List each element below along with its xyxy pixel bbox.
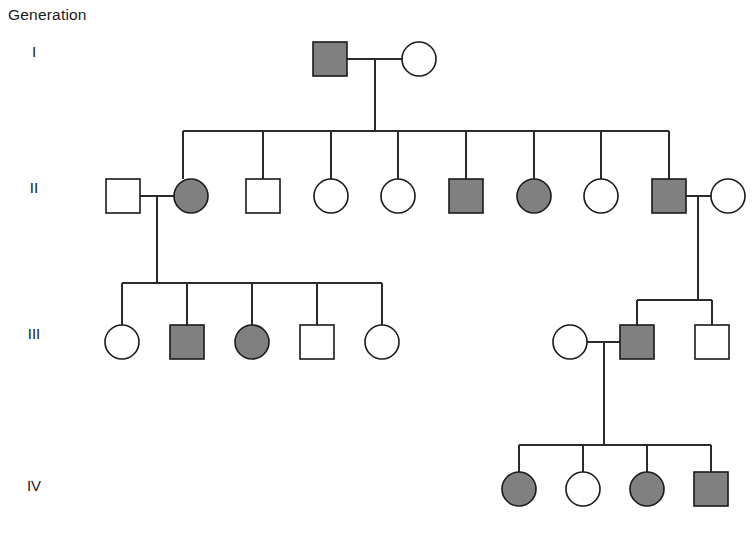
individual-symbols (105, 42, 745, 506)
pedigree-diagram (0, 0, 756, 539)
individual-III-2-male-affected (170, 325, 204, 359)
individual-II-10-female-unaffected (711, 179, 745, 213)
individual-IV-3-female-affected (630, 472, 664, 506)
individual-II-6-male-affected (449, 179, 483, 213)
individual-III-4-male-unaffected (300, 325, 334, 359)
individual-III-8-male-unaffected (695, 325, 729, 359)
individual-I-1-male-affected (313, 42, 347, 76)
individual-III-7-male-affected (620, 325, 654, 359)
connector-lines (122, 59, 712, 472)
individual-IV-2-female-unaffected (566, 472, 600, 506)
individual-IV-1-female-affected (502, 472, 536, 506)
individual-IV-4-male-affected (694, 472, 728, 506)
individual-I-2-female-unaffected (402, 42, 436, 76)
individual-II-5-female-unaffected (381, 179, 415, 213)
pedigree-chart: Generation I II III IV (0, 0, 756, 539)
individual-III-3-female-affected (235, 325, 269, 359)
individual-II-8-female-unaffected (584, 179, 618, 213)
individual-III-1-female-unaffected (105, 325, 139, 359)
individual-III-5-female-unaffected (365, 325, 399, 359)
individual-II-1-male-unaffected (106, 179, 140, 213)
individual-II-3-male-unaffected (246, 179, 280, 213)
individual-II-2-female-affected (174, 179, 208, 213)
individual-III-6-female-unaffected (553, 325, 587, 359)
individual-II-9-male-affected (652, 179, 686, 213)
individual-II-4-female-unaffected (314, 179, 348, 213)
individual-II-7-female-affected (517, 179, 551, 213)
